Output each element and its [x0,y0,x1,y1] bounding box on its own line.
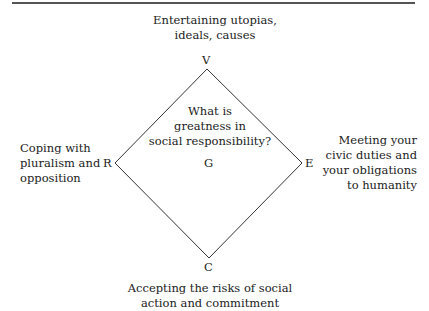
bottom-vertex-label: Accepting the risks of social action and… [120,281,300,311]
center-letter-g: G [204,157,213,170]
right-vertex-label: Meeting your civic duties and your oblig… [305,133,417,193]
vertex-c: C [204,261,213,274]
top-vertex-label: Entertaining utopias, ideals, causes [130,13,300,43]
vertex-r: R [103,157,112,170]
center-question: What is greatness in social responsibili… [140,104,280,149]
left-vertex-label: Coping with pluralism and opposition [20,141,110,186]
vertex-v: V [202,54,210,67]
